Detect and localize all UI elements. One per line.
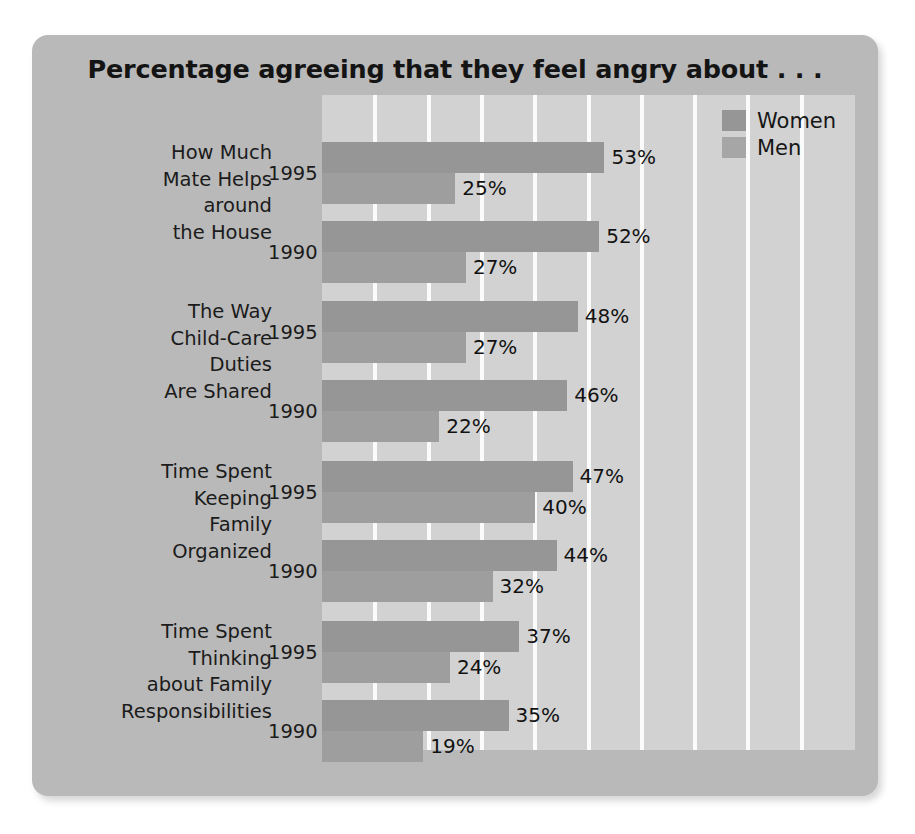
year-label: 1995 — [268, 162, 316, 185]
category-label: How MuchMate Helpsaroundthe House — [72, 140, 272, 246]
category-label-line: Family — [72, 512, 272, 539]
year-label: 1990 — [268, 560, 316, 583]
bar-women — [322, 700, 509, 731]
year-label: 1990 — [268, 241, 316, 264]
bar-value-women: 52% — [606, 221, 650, 252]
category-label-line: Time Spent — [72, 459, 272, 486]
legend-item-women: Women — [722, 107, 862, 134]
category-label: Time SpentThinkingabout FamilyResponsibi… — [72, 619, 272, 725]
year-label: 1990 — [268, 400, 316, 423]
bar-value-women: 47% — [580, 461, 624, 492]
category-label-line: How Much — [72, 140, 272, 167]
bar-men — [322, 492, 535, 523]
legend-swatch-men-icon — [722, 137, 746, 158]
bar-value-men: 22% — [446, 411, 490, 442]
category-label-line: Time Spent — [72, 619, 272, 646]
category-label-line: Duties — [72, 352, 272, 379]
category-label-line: Organized — [72, 539, 272, 566]
bar-women — [322, 301, 578, 332]
bar-men — [322, 652, 450, 683]
chart-card: Percentage agreeing that they feel angry… — [32, 35, 878, 796]
legend-item-men: Men — [722, 134, 862, 161]
bar-men — [322, 571, 493, 602]
category-label: Time SpentKeepingFamilyOrganized — [72, 459, 272, 565]
bar-value-women: 35% — [516, 700, 560, 731]
chart-group: Time SpentKeepingFamilyOrganized199547%4… — [32, 461, 878, 607]
bar-value-women: 48% — [585, 301, 629, 332]
bar-women — [322, 142, 604, 173]
category-label-line: The Way — [72, 299, 272, 326]
legend-swatch-women-icon — [722, 110, 746, 131]
bar-value-men: 19% — [430, 731, 474, 762]
legend-label-men: Men — [757, 136, 801, 160]
bar-value-women: 53% — [611, 142, 655, 173]
category-label-line: the House — [72, 220, 272, 247]
category-label-line: Responsibilities — [72, 699, 272, 726]
bar-value-women: 44% — [564, 540, 608, 571]
bar-women — [322, 461, 573, 492]
year-label: 1995 — [268, 641, 316, 664]
bar-value-women: 46% — [574, 380, 618, 411]
year-label: 1995 — [268, 481, 316, 504]
bar-value-women: 37% — [526, 621, 570, 652]
bar-men — [322, 332, 466, 363]
bar-value-men: 27% — [473, 252, 517, 283]
bar-value-men: 40% — [542, 492, 586, 523]
chart-rows: How MuchMate Helpsaroundthe House199553%… — [32, 95, 878, 750]
chart-title: Percentage agreeing that they feel angry… — [32, 54, 878, 84]
bar-men — [322, 252, 466, 283]
chart-group: Time SpentThinkingabout FamilyResponsibi… — [32, 621, 878, 767]
chart-group: The WayChild-CareDutiesAre Shared199548%… — [32, 301, 878, 447]
category-label-line: Mate Helps — [72, 167, 272, 194]
category-label-line: Are Shared — [72, 379, 272, 406]
category-label-line: Child-Care — [72, 326, 272, 353]
bar-women — [322, 621, 519, 652]
category-label-line: Keeping — [72, 486, 272, 513]
year-label: 1995 — [268, 321, 316, 344]
bar-men — [322, 411, 439, 442]
bar-value-men: 25% — [462, 173, 506, 204]
bar-value-men: 32% — [500, 571, 544, 602]
bar-value-men: 24% — [457, 652, 501, 683]
bar-value-men: 27% — [473, 332, 517, 363]
bar-women — [322, 540, 557, 571]
bar-men — [322, 731, 423, 762]
category-label-line: about Family — [72, 672, 272, 699]
chart-group: How MuchMate Helpsaroundthe House199553%… — [32, 142, 878, 288]
category-label-line: Thinking — [72, 646, 272, 673]
chart-legend: Women Men — [722, 107, 862, 161]
category-label: The WayChild-CareDutiesAre Shared — [72, 299, 272, 405]
bar-men — [322, 173, 455, 204]
category-label-line: around — [72, 193, 272, 220]
legend-label-women: Women — [757, 109, 836, 133]
bar-women — [322, 380, 567, 411]
bar-women — [322, 221, 599, 252]
year-label: 1990 — [268, 720, 316, 743]
